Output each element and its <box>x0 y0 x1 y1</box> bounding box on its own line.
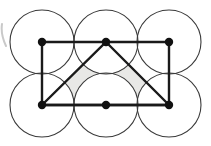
vertex-bottom-middle <box>102 101 110 109</box>
figure-canvas: Six congruent circles packed in a 3x2 la… <box>0 0 211 146</box>
vertex-top-right <box>165 38 173 46</box>
vertex-bottom-right <box>165 101 173 109</box>
vertex-top-left <box>38 38 46 46</box>
vertex-top-middle <box>102 38 110 46</box>
vertex-bottom-left <box>38 101 46 109</box>
circle-packing-triangle-figure: Six congruent circles packed in a 3x2 la… <box>0 0 211 146</box>
